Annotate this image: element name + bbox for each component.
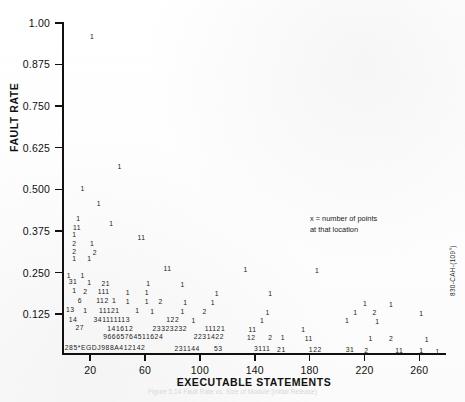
data-marker: 1 [353,310,357,317]
data-marker: 11 [305,335,313,342]
data-marker: 122 [309,347,322,354]
data-marker: 2 [389,336,393,343]
data-marker: 111 [98,289,110,296]
y-tick-0.500: 0.500 [55,189,62,191]
y-tick-0.375: 0.375 [55,230,62,232]
data-marker: 1 [183,299,187,306]
y-tick-label: 0.500 [23,183,50,195]
data-marker: 31 [69,279,78,286]
x-axis-title: EXECUTABLE STATEMENTS [62,376,446,388]
data-marker: 2 [159,299,163,306]
y-axis-title: FAULT RATE [8,83,20,152]
data-marker: 11121 [99,308,120,315]
y-tick-label: 0.750 [23,100,50,112]
x-tick-100: 100 [199,355,201,361]
data-marker: 31 [346,347,355,354]
x-tick-220: 220 [364,355,366,361]
data-marker: 1 [181,282,185,289]
data-marker: 13 [66,307,75,314]
scanned-page: FAULT RATE 0.1250.2500.3750.5000.6250.75… [0,0,465,402]
data-marker: 1 [80,273,84,280]
data-marker: 12 [247,334,256,341]
y-tick-label: 0.875 [23,58,50,70]
data-marker: 1 [181,309,185,316]
data-marker: 1 [244,267,248,274]
x-tick-20: 20 [89,355,91,361]
data-marker: 1 [145,299,149,306]
y-tick-0.250: 0.250 [55,272,62,274]
data-marker: 2 [364,347,368,354]
x-tick-180: 180 [309,355,311,361]
x-tick-60: 60 [144,355,146,361]
data-marker: 122 [166,317,179,324]
y-tick-label: 0.125 [23,308,50,320]
data-marker: 1 [266,309,270,316]
data-marker: 1 [345,318,349,325]
data-marker: 11121 [205,326,226,333]
data-marker: 21 [102,280,111,287]
data-marker: 1 [90,34,94,41]
x-tick-label: 260 [410,364,428,376]
x-tick-260: 260 [419,355,421,361]
data-marker: 96665764511624 [103,334,163,341]
data-marker: 1 [145,290,149,297]
x-tick-label: 60 [139,364,151,376]
data-marker: 1 [191,317,195,324]
data-marker: 1 [260,318,264,325]
figure-caption: Figure 5.14 Fault Rate vs. Size of Modul… [0,388,465,395]
data-marker: 14 [69,316,78,323]
data-marker: 2 [83,288,87,295]
data-marker: 1 [268,291,272,298]
y-tick-0.750: 0.750 [55,105,62,107]
data-marker: 1 [112,298,116,305]
data-marker: 1 [375,318,379,325]
data-marker: 141612 [107,325,133,332]
y-tick-label: 0.625 [23,142,50,154]
data-marker: 11 [249,326,257,333]
y-tick-0.875: 0.875 [55,64,62,66]
data-marker: 2 [202,309,206,316]
data-marker: 2231422 [194,334,224,341]
x-tick-label: 180 [301,364,319,376]
data-marker: 1 [363,301,367,308]
data-marker: 1 [436,348,440,355]
annotation-line-2: at that location [310,225,377,236]
data-marker: 1 [90,241,94,248]
data-marker: 53 [214,346,223,353]
data-marker: 1 [72,232,76,239]
data-marker: 1 [301,327,305,334]
y-tick-label: 1.00 [29,17,50,29]
data-marker: 1 [80,186,84,193]
data-marker: 11 [395,348,403,355]
data-marker: 27 [75,325,84,332]
y-tick-0.625: 0.625 [55,147,62,149]
x-tick-label: 20 [84,364,96,376]
x-tick-140: 140 [254,355,256,361]
data-marker: 1 [211,300,215,307]
data-marker: 231144 [174,345,199,352]
data-marker: 1 [109,221,113,228]
data-marker: 21 [277,346,286,353]
data-marker: 11 [137,234,145,241]
data-marker: 1 [117,163,121,170]
data-marker: 3111 [254,346,270,353]
data-marker: 1 [83,307,87,314]
annotation-line-1: x = number of points [310,214,377,225]
data-marker: 1 [72,256,76,263]
y-axis-line [62,22,64,355]
data-marker: 1 [389,302,393,309]
data-marker: 1 [419,310,423,317]
data-marker: 2 [268,335,272,342]
margin-identifier: 830-CAH-(109°) [449,245,456,296]
data-marker: 285*EGDJ988A412142 [65,345,146,352]
data-marker: 1 [97,201,101,208]
plot-area: 0.1250.2500.3750.5000.6250.7500.8751.00 … [62,22,446,355]
y-tick-label: 0.250 [23,267,50,279]
data-marker: 2 [93,250,97,257]
data-marker: 1 [146,281,150,288]
x-tick-label: 140 [246,364,264,376]
data-marker: 1 [76,216,80,223]
data-marker: 1 [419,348,423,355]
data-marker: 23323232 [153,326,188,333]
data-marker: 1 [368,336,372,343]
